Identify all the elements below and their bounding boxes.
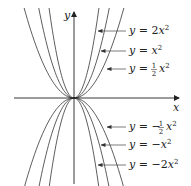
svg-text:x2: x2 — [166, 120, 177, 133]
label-2x2: y = 2x2 — [128, 24, 169, 37]
label-neg-half-x2: y = − 1 2 x2 — [128, 120, 177, 136]
label-neg-2x2: y = −2x2 — [128, 158, 178, 171]
label-neg-x2: y = −x2 — [128, 138, 171, 151]
parabola-family-chart: y x y = 2x2 y = x2 y = 1 2 x2 y = − 1 2 … — [0, 0, 191, 186]
label-x2: y = x2 — [128, 44, 162, 57]
svg-text:x2: x2 — [159, 62, 170, 75]
svg-text:2: 2 — [152, 70, 156, 78]
svg-text:1: 1 — [159, 120, 163, 128]
y-axis-label: y — [63, 9, 71, 22]
svg-text:2: 2 — [159, 128, 163, 136]
x-axis-label: x — [173, 101, 180, 114]
svg-text:y = −: y = − — [128, 120, 161, 133]
svg-text:1: 1 — [152, 62, 156, 70]
label-half-x2: y = 1 2 x2 — [128, 62, 170, 78]
svg-text:y =: y = — [128, 62, 148, 75]
